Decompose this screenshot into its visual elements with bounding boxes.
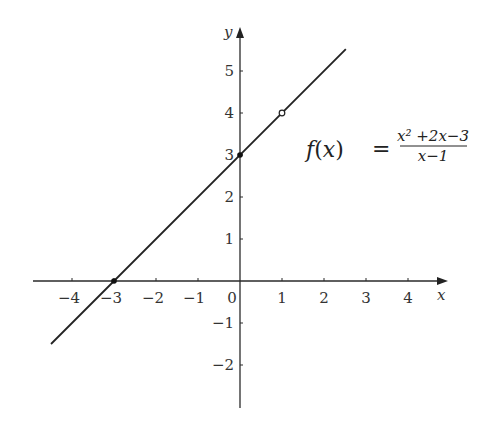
- formula-equals: =: [372, 136, 390, 161]
- x-axis-label: x: [437, 286, 446, 304]
- y-tick-label: −1: [212, 314, 234, 332]
- x-tick-label: −1: [183, 289, 205, 307]
- y-tick-label: 1: [224, 230, 234, 248]
- x-tick-label: 3: [361, 289, 371, 307]
- formula-lhs: f(x): [304, 137, 344, 162]
- formula-annotation: f(x) = x² +2x−3 x−1: [304, 127, 469, 165]
- formula-x: x: [323, 137, 336, 162]
- x-tick-label: 4: [403, 289, 413, 307]
- y-axis-label: y: [223, 23, 233, 41]
- function-graph: −4−3−2−101234−2−112345 y x f(x) = x² +2x…: [0, 0, 500, 431]
- x-intercept-point: [111, 278, 117, 284]
- y-axis-arrow-icon: [236, 27, 244, 38]
- y-tick-label: 2: [224, 188, 234, 206]
- y-tick-label: −2: [212, 356, 234, 374]
- hole-point: [279, 110, 285, 116]
- x-tick-label: 1: [277, 289, 287, 307]
- x-tick-label: −2: [142, 289, 164, 307]
- formula-paren-close: ): [335, 137, 344, 162]
- y-tick-label: 4: [224, 104, 234, 122]
- y-tick-label: 5: [224, 62, 234, 80]
- x-tick-label: 2: [319, 289, 329, 307]
- y-intercept-point: [237, 152, 243, 158]
- x-tick-label: 0: [227, 289, 237, 307]
- formula-paren-open: (: [314, 137, 323, 162]
- tick-labels: −4−3−2−101234−2−112345: [58, 62, 413, 374]
- x-axis-arrow-icon: [437, 277, 448, 285]
- formula-numerator: x² +2x−3: [397, 127, 469, 145]
- axes: [33, 27, 448, 408]
- formula-denominator: x−1: [418, 147, 449, 165]
- x-tick-label: −4: [58, 289, 80, 307]
